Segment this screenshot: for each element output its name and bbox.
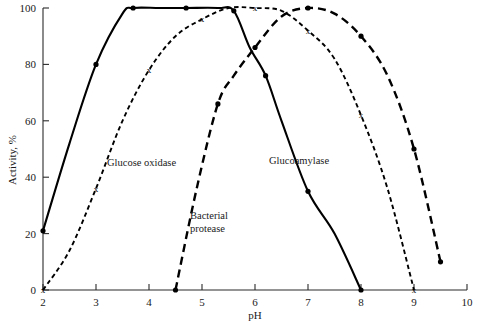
y-tick-label: 40	[25, 171, 37, 183]
x-tick-label: 7	[305, 296, 311, 308]
chart-container: 020406080100 2345678910 xxxxxxxx Activit…	[0, 0, 482, 323]
x-tick-label: 2	[40, 296, 46, 308]
series-markers: xxxxxxxx	[40, 3, 443, 295]
data-point-glucoamylase	[263, 73, 268, 78]
data-point-glucose-oxidase: x	[147, 65, 152, 75]
data-point-glucoamylase	[358, 287, 363, 292]
data-point-glucose-oxidase: x	[253, 3, 258, 13]
data-point-glucoamylase	[184, 5, 189, 10]
data-point-bacterial-protease	[173, 287, 178, 292]
data-point-bacterial-protease	[215, 101, 220, 106]
x-axis-ticks: 2345678910	[40, 284, 473, 308]
data-point-glucoamylase	[93, 62, 98, 67]
data-point-glucose-oxidase: x	[306, 26, 311, 36]
x-tick-label: 10	[462, 296, 474, 308]
data-point-bacterial-protease	[438, 259, 443, 264]
series-curves	[43, 7, 441, 290]
series-label-glucoamylase: Glucoamylase	[269, 155, 329, 166]
x-tick-label: 4	[146, 296, 152, 308]
y-tick-label: 60	[25, 115, 37, 127]
y-axis-title: Activity, %	[6, 135, 18, 185]
x-tick-label: 8	[358, 296, 364, 308]
data-point-glucose-oxidase: x	[412, 285, 417, 295]
x-tick-label: 6	[252, 296, 258, 308]
data-point-glucoamylase	[305, 189, 310, 194]
activity-vs-ph-plot: 020406080100 2345678910 xxxxxxxx Activit…	[0, 0, 482, 323]
y-tick-label: 100	[20, 2, 37, 14]
data-point-glucoamylase	[40, 228, 45, 233]
data-point-bacterial-protease	[252, 45, 257, 50]
x-tick-label: 9	[411, 296, 417, 308]
x-tick-label: 5	[199, 296, 205, 308]
series-label-bacterial-protease-line1: Bacterial	[190, 210, 228, 221]
y-tick-label: 0	[31, 284, 37, 296]
series-label-glucose-oxidase: Glucose oxidase	[107, 157, 176, 168]
data-point-glucoamylase	[131, 5, 136, 10]
curve-glucoamylase	[43, 7, 361, 290]
data-point-glucoamylase	[231, 8, 236, 13]
data-point-glucose-oxidase: x	[359, 110, 364, 120]
data-point-bacterial-protease	[305, 5, 310, 10]
series-label-bacterial-protease-line2: protease	[190, 223, 225, 234]
data-point-glucose-oxidase: x	[94, 184, 99, 194]
data-point-bacterial-protease	[358, 34, 363, 39]
data-point-bacterial-protease	[411, 146, 416, 151]
data-point-glucose-oxidase: x	[41, 285, 46, 295]
data-point-glucose-oxidase: x	[200, 14, 205, 24]
x-axis-title: pH	[248, 309, 262, 321]
axes-group	[43, 8, 467, 290]
y-axis-ticks: 020406080100	[20, 2, 50, 296]
curve-glucose-oxidase	[43, 7, 414, 290]
curve-bacterial-protease	[176, 8, 441, 290]
y-tick-label: 20	[25, 228, 37, 240]
y-tick-label: 80	[25, 58, 37, 70]
x-tick-label: 3	[93, 296, 99, 308]
